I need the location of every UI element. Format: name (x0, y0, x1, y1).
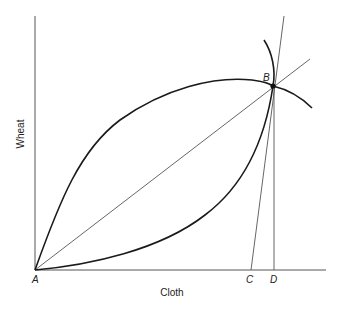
x-axis-label: Cloth (160, 287, 183, 298)
trade-diagram: A B C D Cloth Wheat (0, 0, 339, 311)
point-b-dot (270, 83, 275, 88)
y-axis-label: Wheat (15, 119, 26, 148)
point-b-label: B (263, 72, 270, 83)
point-a-label: A (31, 274, 39, 285)
lower-convex-curve (35, 40, 274, 270)
point-d-label: D (270, 274, 277, 285)
diagonal-ray (35, 59, 310, 270)
point-c-label: C (246, 274, 254, 285)
steep-line-c (251, 16, 284, 270)
upper-concave-curve (35, 79, 312, 270)
